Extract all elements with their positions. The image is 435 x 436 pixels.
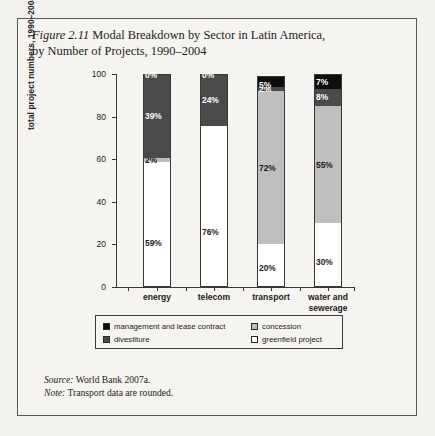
- chart: total project numbers, 1990–2004 (%) 020…: [32, 70, 402, 320]
- figure-page: Figure 2.11 Modal Breakdown by Sector in…: [0, 0, 435, 436]
- bar-transport[interactable]: 20%72%2%5%: [257, 74, 285, 287]
- y-axis-tick-label: 60: [97, 154, 106, 164]
- bar-segment-divestiture[interactable]: 8%: [314, 89, 342, 106]
- bar-value-label: 30%: [316, 257, 333, 267]
- legend-swatch-icon: [103, 336, 110, 343]
- bar-segment-concession[interactable]: 55%: [314, 106, 342, 223]
- bar-value-label: 59%: [145, 238, 162, 248]
- bar-energy[interactable]: 59%2%39%0%: [143, 74, 171, 287]
- plot-area: 020406080100 59%2%39%0%76%0%24%0%20%72%2…: [116, 74, 355, 287]
- x-axis-label-water-and-sewerage: water andsewerage: [308, 292, 348, 313]
- source-text: World Bank 2007a.: [76, 374, 151, 385]
- y-axis-label: total project numbers, 1990–2004 (%): [26, 0, 36, 130]
- bar-segment-management-and-lease-contract[interactable]: 0%: [200, 74, 228, 75]
- bar-value-label: 0%: [202, 70, 214, 80]
- x-axis-tick: [157, 287, 158, 291]
- x-axis-label-energy: energy: [143, 292, 171, 303]
- bar-value-label: 24%: [202, 95, 219, 105]
- bar-segment-greenfield-project[interactable]: 59%: [143, 162, 171, 287]
- legend-swatch-icon: [103, 323, 110, 330]
- legend-label: concession: [262, 322, 301, 331]
- figure-number: Figure 2.11: [32, 28, 89, 42]
- y-axis-tick-label: 40: [97, 197, 106, 207]
- bar-value-label: 5%: [259, 80, 271, 90]
- source-line: Source: World Bank 2007a.: [44, 374, 374, 387]
- y-axis-tick: 20: [112, 244, 116, 245]
- y-axis-tick-label: 80: [97, 112, 106, 122]
- figure-title-line1: Modal Breakdown by Sector in Latin Ameri…: [92, 28, 325, 42]
- legend-item-greenfield-project: greenfield project: [251, 335, 322, 344]
- legend-item-management-and-lease-contract: management and lease contract: [103, 322, 251, 331]
- legend-swatch-icon: [251, 323, 258, 330]
- bar-value-label: 72%: [259, 163, 276, 173]
- bar-segment-greenfield-project[interactable]: 76%: [200, 126, 228, 287]
- bar-segment-divestiture[interactable]: 39%: [143, 75, 171, 158]
- source-label: Source:: [44, 374, 73, 385]
- y-axis-tick: 0: [112, 287, 116, 288]
- bar-value-label: 55%: [316, 160, 333, 170]
- x-axis-label-transport: transport: [252, 292, 290, 303]
- y-axis-tick-label: 20: [97, 239, 106, 249]
- x-axis-tick: [186, 287, 187, 291]
- bar-segment-concession[interactable]: 72%: [257, 91, 285, 244]
- note-text: Transport data are rounded.: [68, 387, 174, 398]
- bar-segment-management-and-lease-contract[interactable]: 0%: [143, 74, 171, 75]
- note-line: Note: Transport data are rounded.: [44, 387, 374, 400]
- bar-segment-concession[interactable]: 2%: [143, 158, 171, 162]
- y-axis-tick: 40: [112, 202, 116, 203]
- y-axis-tick: 100: [112, 74, 116, 75]
- x-axis-tick: [300, 287, 301, 291]
- x-axis-line: [116, 287, 355, 288]
- bar-water-and-sewerage[interactable]: 30%55%8%7%: [314, 74, 342, 287]
- bar-segment-greenfield-project[interactable]: 30%: [314, 223, 342, 287]
- bar-segment-greenfield-project[interactable]: 20%: [257, 244, 285, 287]
- x-axis-tick: [214, 287, 215, 291]
- figure-title-line2: by Number of Projects, 1990–2004: [32, 44, 206, 58]
- bar-value-label: 0%: [145, 70, 157, 80]
- x-axis-tick: [128, 287, 129, 291]
- legend-swatch-icon: [251, 336, 258, 343]
- legend-row: divestiture greenfield project: [103, 333, 335, 346]
- bar-value-label: 76%: [202, 227, 219, 237]
- bar-value-label: 8%: [316, 92, 328, 102]
- legend-label: divestiture: [114, 335, 150, 344]
- legend-row: management and lease contract concession: [103, 320, 335, 333]
- y-axis-tick-label: 0: [101, 282, 106, 292]
- bar-value-label: 7%: [316, 77, 328, 87]
- x-axis-tick: [243, 287, 244, 291]
- y-axis-line: [116, 74, 117, 287]
- legend-item-concession: concession: [251, 322, 301, 331]
- bar-value-label: 39%: [145, 111, 162, 121]
- x-axis-tick: [328, 287, 329, 291]
- y-axis-tick: 80: [112, 117, 116, 118]
- y-axis-tick-label: 100: [92, 69, 106, 79]
- chart-legend: management and lease contract concession…: [95, 315, 343, 349]
- legend-label: management and lease contract: [114, 322, 225, 331]
- bar-segment-divestiture[interactable]: 24%: [200, 75, 228, 126]
- bar-segment-management-and-lease-contract[interactable]: 5%: [257, 76, 285, 87]
- figure-title: Figure 2.11 Modal Breakdown by Sector in…: [32, 28, 404, 59]
- bar-telecom[interactable]: 76%0%24%0%: [200, 74, 228, 287]
- bar-value-label: 20%: [259, 263, 276, 273]
- bar-segment-management-and-lease-contract[interactable]: 7%: [314, 74, 342, 89]
- x-axis-tick: [271, 287, 272, 291]
- y-axis-tick: 60: [112, 159, 116, 160]
- x-axis-tick: [354, 287, 355, 291]
- x-axis-label-telecom: telecom: [198, 292, 230, 303]
- note-label: Note:: [44, 387, 65, 398]
- legend-item-divestiture: divestiture: [103, 335, 251, 344]
- figure-notes: Source: World Bank 2007a. Note: Transpor…: [44, 374, 374, 399]
- legend-label: greenfield project: [262, 335, 322, 344]
